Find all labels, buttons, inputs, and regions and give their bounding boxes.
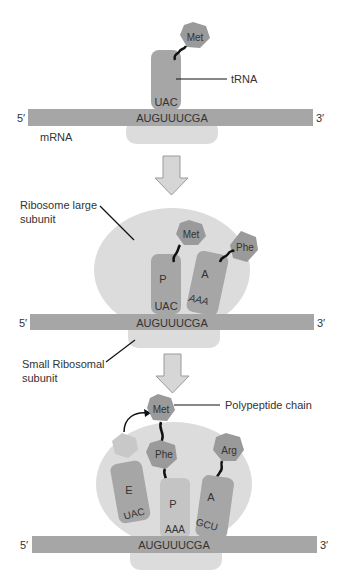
a-site-label: A bbox=[207, 491, 215, 503]
met-label: Met bbox=[183, 229, 200, 240]
polypeptide-label: Polypeptide chain bbox=[225, 399, 312, 411]
small-subunit-pointer bbox=[106, 340, 135, 362]
small-subunit-label-2: subunit bbox=[22, 372, 57, 384]
phe-label: Phe bbox=[236, 242, 254, 253]
three-prime-label: 3′ bbox=[317, 317, 325, 329]
p-site-label: P bbox=[159, 273, 166, 285]
met-label: Met bbox=[187, 32, 204, 43]
stage-1: Met tRNA UAC AUGUUUCGA 5′ 3′ mRNA bbox=[17, 22, 324, 144]
e-site-label: E bbox=[125, 484, 132, 496]
mrna-sequence: AUGUUUCGA bbox=[136, 112, 208, 124]
five-prime-label: 5′ bbox=[17, 112, 25, 124]
three-prime-label: 3′ bbox=[320, 539, 328, 551]
a-site-label: A bbox=[201, 268, 209, 280]
p-site-label: P bbox=[169, 498, 176, 510]
translation-diagram: Met tRNA UAC AUGUUUCGA 5′ 3′ mRNA P UAC … bbox=[0, 0, 343, 574]
trna-label: tRNA bbox=[231, 73, 258, 85]
met-label: Met bbox=[153, 404, 170, 415]
p-anticodon: AAA bbox=[165, 524, 185, 535]
five-prime-label: 5′ bbox=[20, 539, 28, 551]
large-subunit-label-2: subunit bbox=[20, 213, 55, 225]
stage-3: Met Polypeptide chain Phe E UAC P AAA Ar… bbox=[20, 394, 328, 570]
down-arrow-2 bbox=[156, 354, 189, 393]
anticodon-label: UAC bbox=[154, 96, 177, 108]
five-prime-label: 5′ bbox=[19, 317, 27, 329]
mrna-label: mRNA bbox=[40, 131, 73, 143]
p-anticodon: UAC bbox=[154, 300, 177, 312]
three-prime-label: 3′ bbox=[316, 112, 324, 124]
mrna-sequence: AUGUUUCGA bbox=[136, 317, 208, 329]
mrna-sequence: AUGUUUCGA bbox=[138, 539, 210, 551]
small-subunit-label: Small Ribosomal bbox=[22, 358, 105, 370]
down-arrow-1 bbox=[155, 156, 188, 195]
phe-label: Phe bbox=[155, 449, 173, 460]
large-subunit-label: Ribosome large bbox=[20, 199, 97, 211]
arg-label: Arg bbox=[221, 445, 237, 456]
